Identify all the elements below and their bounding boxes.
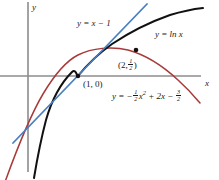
parabola-half-denominator: 2 (133, 95, 138, 102)
point-marker-2-half (134, 48, 139, 53)
parabola-eq-mid: + 2x − (146, 91, 176, 101)
parabola-equation-label: y = −12x2 + 2x − 32 (112, 89, 182, 103)
tangent-line-equation-label: y = x − 1 (77, 19, 111, 28)
parabola-curve-red (5, 48, 200, 180)
x-axis-label: x (205, 79, 209, 88)
parabola-fraction-half: 12 (133, 89, 138, 103)
parabola-eq-prefix: y = − (112, 91, 133, 101)
point-fraction-denominator: 2 (128, 64, 133, 71)
log-curve-equation-label: y = ln x (155, 30, 183, 39)
y-axis-label: y (32, 3, 36, 12)
point-label-1-0: (1, 0) (83, 80, 103, 89)
point-label-2-half: (2,12) (118, 58, 137, 72)
point-label-open: (2, (118, 60, 128, 70)
point-fraction: 12 (128, 58, 133, 72)
parabola-fraction-three-halves: 32 (176, 89, 181, 103)
point-marker-1-0 (76, 74, 80, 78)
graph-figure: y x y = x − 1 y = ln x (1, 0) (2,12) y =… (0, 0, 219, 180)
parabola-threehalves-denominator: 2 (176, 95, 181, 102)
point-label-close: ) (134, 60, 137, 70)
